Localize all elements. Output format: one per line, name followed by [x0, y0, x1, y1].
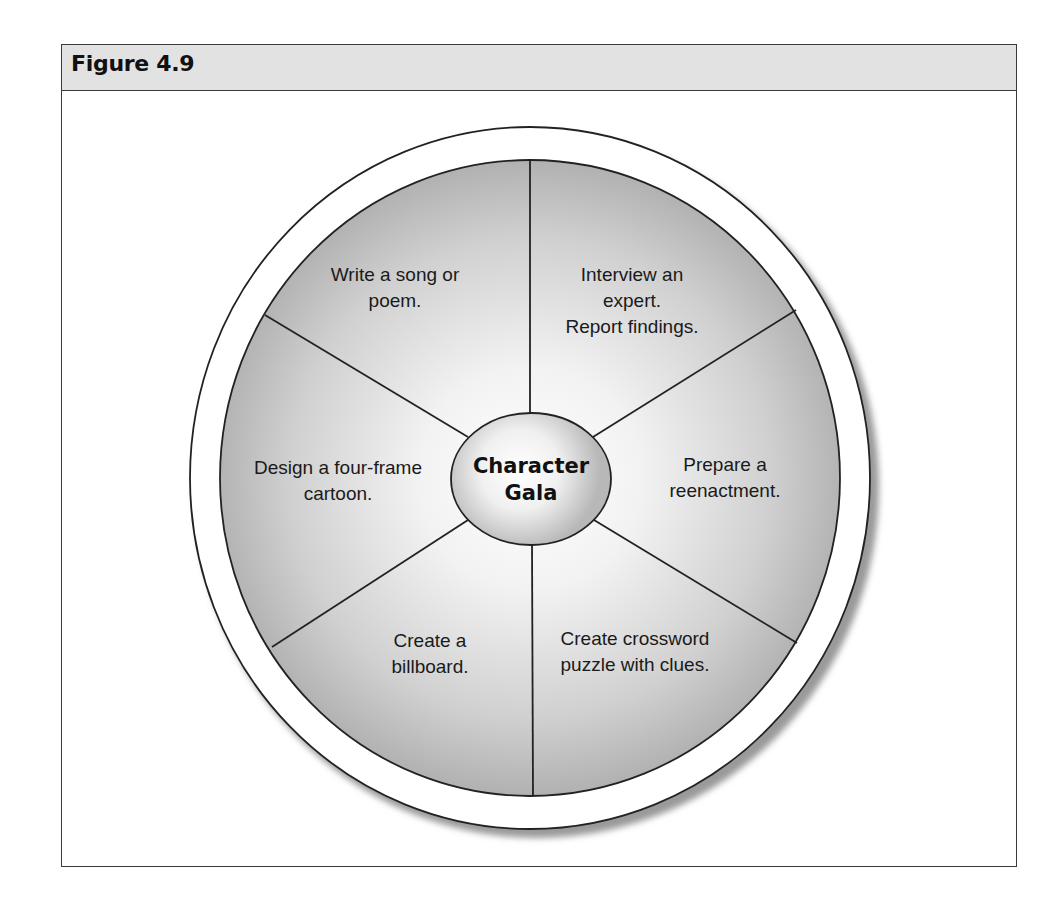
segment-label-crossword: Create crossword puzzle with clues.	[530, 626, 740, 678]
segment-line: Design a four-frame	[228, 455, 448, 481]
segment-line: billboard.	[340, 654, 520, 680]
center-label-line1: Character	[451, 453, 611, 480]
segment-label-cartoon: Design a four-frame cartoon.	[228, 455, 448, 507]
segment-line: Interview an	[532, 262, 732, 288]
segment-line: expert.	[532, 288, 732, 314]
segment-line: Create a	[340, 628, 520, 654]
segment-line: Create crossword	[530, 626, 740, 652]
segment-line: reenactment.	[630, 478, 820, 504]
segment-label-reenactment: Prepare a reenactment.	[630, 452, 820, 504]
segment-label-interview-expert: Interview an expert. Report findings.	[532, 262, 732, 340]
center-label-line2: Gala	[451, 480, 611, 507]
segment-line: Write a song or	[300, 262, 490, 288]
center-label: Character Gala	[451, 453, 611, 507]
segment-label-billboard: Create a billboard.	[340, 628, 520, 680]
segment-label-write-song: Write a song or poem.	[300, 262, 490, 314]
segment-line: Prepare a	[630, 452, 820, 478]
segment-line: puzzle with clues.	[530, 652, 740, 678]
segment-line: poem.	[300, 288, 490, 314]
segment-line: Report findings.	[532, 314, 732, 340]
segment-line: cartoon.	[228, 481, 448, 507]
